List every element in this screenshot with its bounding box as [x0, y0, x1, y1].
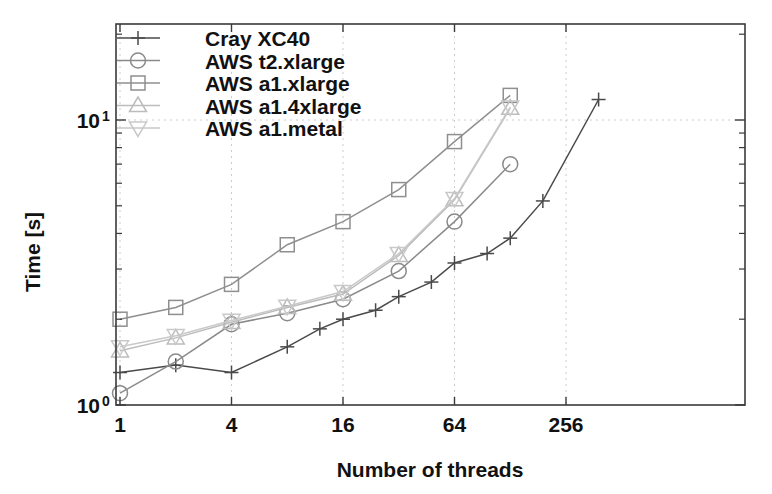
- y-tick-label-mantissa: 10: [77, 109, 100, 132]
- legend-label: AWS a1.xlarge: [205, 72, 350, 95]
- x-tick-label: 256: [548, 413, 583, 436]
- x-tick-label: 4: [226, 413, 238, 436]
- y-axis-title: Time [s]: [21, 212, 44, 292]
- y-tick-label-exponent: 1: [102, 108, 110, 124]
- legend-label: AWS a1.metal: [205, 117, 343, 140]
- x-tick-label: 64: [443, 413, 467, 436]
- legend-label: Cray XC40: [205, 27, 310, 50]
- chart-figure: 141664256 100101 Number of threads Time …: [0, 0, 772, 494]
- legend-label: AWS a1.4xlarge: [205, 95, 361, 118]
- y-tick-label-exponent: 0: [102, 393, 110, 409]
- y-tick-label-mantissa: 10: [77, 394, 100, 417]
- legend-label: AWS t2.xlarge: [205, 50, 345, 73]
- log-log-line-chart: 141664256 100101 Number of threads Time …: [0, 0, 772, 494]
- x-tick-label: 1: [114, 413, 126, 436]
- x-axis-title: Number of threads: [337, 458, 524, 481]
- x-tick-label: 16: [331, 413, 354, 436]
